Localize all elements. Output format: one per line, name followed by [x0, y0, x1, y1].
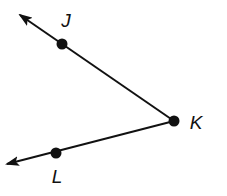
angle-figure: [0, 0, 227, 196]
point-j: [57, 39, 68, 50]
ray-kj: [20, 15, 174, 121]
vertex-k-label: K: [190, 113, 203, 132]
vertex-k: [169, 116, 180, 127]
ray-kl: [7, 121, 174, 164]
angle-diagram: J K L: [0, 0, 227, 196]
point-l: [51, 148, 62, 159]
point-j-label: J: [61, 11, 71, 30]
point-l-label: L: [52, 167, 63, 186]
